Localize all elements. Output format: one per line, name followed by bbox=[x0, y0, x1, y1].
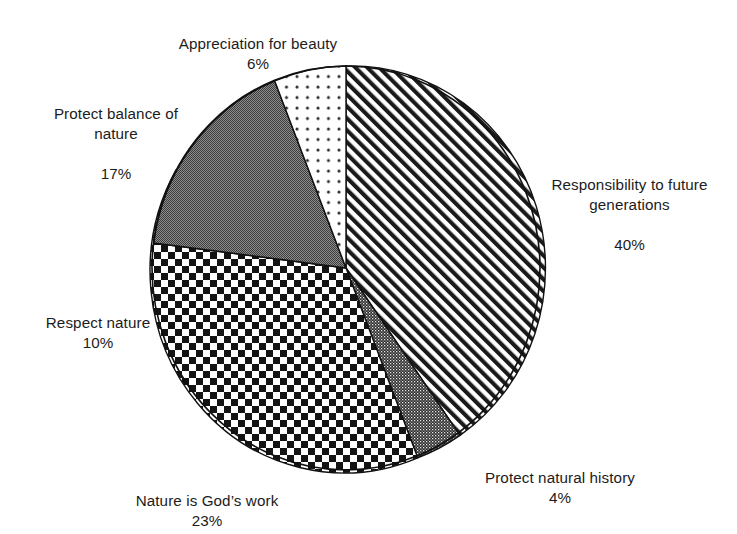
pie-label-respect-nature-text: Respect nature bbox=[46, 314, 150, 331]
pie-label-responsibility-to-future-generations-text-line1: Responsibility to future bbox=[551, 176, 707, 193]
pie-label-protect-natural-history-value: 4% bbox=[440, 488, 680, 508]
pie-label-protect-balance-of-nature-text-line2: nature bbox=[16, 124, 216, 144]
pie-label-nature-is-gods-work-text: Nature is God’s work bbox=[136, 492, 279, 509]
pie-label-responsibility-to-future-generations: Responsibility to future generations 40% bbox=[522, 155, 737, 275]
pie-label-appreciation-for-beauty-text: Appreciation for beauty bbox=[179, 35, 338, 52]
pie-label-protect-balance-of-nature-value: 17% bbox=[16, 164, 216, 184]
pie-label-responsibility-to-future-generations-value: 40% bbox=[522, 235, 737, 255]
pie-label-nature-is-gods-work: Nature is God’s work 23% bbox=[92, 471, 322, 534]
pie-label-respect-nature-value: 10% bbox=[8, 333, 188, 353]
pie-label-respect-nature: Respect nature 10% bbox=[8, 293, 188, 373]
pie-label-responsibility-to-future-generations-text-line2: generations bbox=[522, 195, 737, 215]
pie-label-nature-is-gods-work-value: 23% bbox=[92, 511, 322, 531]
pie-label-protect-balance-of-nature: Protect balance of nature 17% bbox=[16, 84, 216, 204]
pie-label-protect-natural-history-text: Protect natural history bbox=[485, 469, 635, 486]
pie-label-appreciation-for-beauty-value: 6% bbox=[148, 54, 368, 74]
pie-label-protect-natural-history: Protect natural history 4% bbox=[440, 448, 680, 528]
pie-chart: Appreciation for beauty 6% Protect balan… bbox=[0, 0, 737, 534]
pie-label-appreciation-for-beauty: Appreciation for beauty 6% bbox=[148, 14, 368, 94]
pie-label-protect-balance-of-nature-text-line1: Protect balance of bbox=[54, 105, 178, 122]
